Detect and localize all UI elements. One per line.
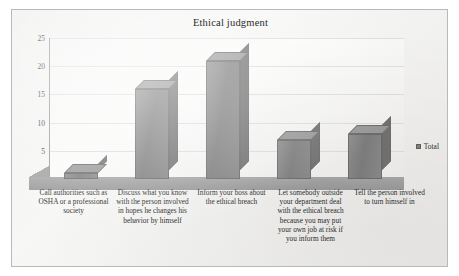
bar-front-face bbox=[206, 61, 240, 179]
gridline-25 bbox=[49, 38, 404, 39]
bar-front-face bbox=[64, 173, 98, 179]
bar-side-face bbox=[382, 116, 391, 170]
bar-front-face bbox=[135, 89, 169, 179]
y-tick-10: 10 bbox=[23, 118, 45, 127]
bar-1[interactable] bbox=[64, 173, 98, 179]
y-axis-line bbox=[49, 38, 50, 179]
chart-screenshot: Ethical judgment 25 20 15 10 5 0 bbox=[0, 0, 459, 276]
chart-frame: Ethical judgment 25 20 15 10 5 0 bbox=[11, 9, 448, 267]
floor-skew bbox=[29, 166, 49, 177]
y-tick-20: 20 bbox=[23, 62, 45, 71]
legend-swatch-total bbox=[416, 144, 421, 149]
y-tick-25: 25 bbox=[23, 34, 45, 43]
bar-2[interactable] bbox=[135, 89, 169, 179]
bar-5[interactable] bbox=[348, 134, 382, 179]
x-category-label-3: Inform your boss about the ethical breac… bbox=[192, 188, 271, 206]
y-tick-15: 15 bbox=[23, 90, 45, 99]
bar-front-face bbox=[348, 134, 382, 179]
y-axis-tick-labels: 25 20 15 10 5 0 bbox=[20, 38, 45, 179]
x-category-label-5: Tell the person involved to turn himself… bbox=[350, 188, 429, 206]
bar-side-face bbox=[240, 43, 249, 170]
x-category-label-4: Let somebody outside your department dea… bbox=[271, 188, 350, 243]
bar-front-face bbox=[277, 140, 311, 179]
bar-4[interactable] bbox=[277, 140, 311, 179]
x-category-label-2: Discuss what you know with the person in… bbox=[113, 188, 192, 225]
chart-title: Ethical judgment bbox=[12, 17, 448, 28]
legend-label-total: Total bbox=[424, 142, 439, 151]
bar-side-face bbox=[311, 122, 320, 170]
x-category-label-1: Call authorities such as OSHA or a profe… bbox=[34, 188, 113, 216]
plot-area bbox=[49, 38, 404, 179]
y-tick-5: 5 bbox=[23, 146, 45, 155]
x-axis-category-labels: Call authorities such as OSHA or a profe… bbox=[34, 188, 429, 243]
chart-legend: Total bbox=[414, 141, 441, 152]
bar-3[interactable] bbox=[206, 61, 240, 179]
